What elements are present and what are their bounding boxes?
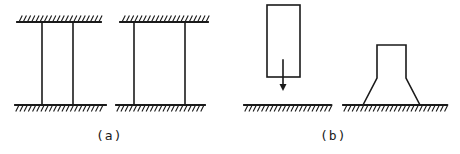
diagram-canvas: (a) (b) — [0, 0, 460, 154]
pedestal-outline — [363, 45, 420, 105]
panel-label-a: (a) — [96, 128, 122, 143]
panel-label-b: (b) — [320, 128, 346, 143]
diagram-figure — [0, 0, 460, 154]
arrow-head-icon — [280, 84, 287, 91]
